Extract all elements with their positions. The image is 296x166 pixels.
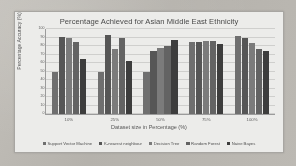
x-axis-tick-label: 75% <box>202 117 211 122</box>
y-axis-tick-label: 0 <box>42 112 44 116</box>
plot-area: 0102030405060708090100 10%25%50%75%100% <box>45 29 275 115</box>
bar <box>105 35 111 114</box>
y-axis-tick-label: 50 <box>41 70 45 74</box>
y-axis-tick-label: 60 <box>41 61 45 65</box>
legend-label: Support Vector Machine <box>48 141 93 146</box>
bar <box>235 36 241 114</box>
legend-color-swatch <box>149 142 152 145</box>
bar <box>80 59 86 114</box>
bar <box>157 48 163 114</box>
x-axis-tick-label: 25% <box>110 117 119 122</box>
bar <box>164 46 170 114</box>
legend-item: Random Forest <box>186 141 220 146</box>
y-axis-tick-label: 70 <box>41 53 45 57</box>
bar <box>203 41 209 114</box>
bar-group: 10% <box>52 29 86 114</box>
x-axis-label: Dataset size in Percentage (%) <box>15 124 283 130</box>
bar <box>242 38 248 115</box>
x-axis-tick-label: 50% <box>156 117 165 122</box>
bar <box>263 51 269 114</box>
bar <box>143 72 149 115</box>
legend-item: Support Vector Machine <box>43 141 92 146</box>
legend-color-swatch <box>43 142 46 145</box>
bar <box>171 40 177 114</box>
bar <box>98 72 104 115</box>
y-axis-tick-label: 40 <box>41 78 45 82</box>
bar-group: 100% <box>235 29 269 114</box>
y-axis-label: Percentage Accuracy (%) <box>16 6 22 76</box>
bar-group: 75% <box>189 29 223 114</box>
legend-label: Random Forest <box>191 141 220 146</box>
y-axis-tick-label: 10 <box>41 104 45 108</box>
y-axis-tick-label: 100 <box>39 27 45 31</box>
legend-item: K-nearest neighbour <box>99 141 142 146</box>
bar-groups: 10%25%50%75%100% <box>46 29 275 114</box>
chart-title: Percentage Achieved for Asian Middle Eas… <box>15 17 283 26</box>
bar <box>256 49 262 114</box>
bar-group: 25% <box>98 29 132 114</box>
legend-color-swatch <box>99 142 102 145</box>
bar <box>249 43 255 114</box>
bar-group: 50% <box>143 29 177 114</box>
bar <box>189 42 195 114</box>
bar <box>66 38 72 115</box>
x-axis-tick-label: 10% <box>65 117 74 122</box>
y-axis-tick-label: 80 <box>41 44 45 48</box>
bar <box>196 42 202 114</box>
bar <box>119 38 125 114</box>
legend-color-swatch <box>186 142 189 145</box>
bar <box>150 51 156 114</box>
legend-label: Decision Tree <box>154 141 180 146</box>
bar <box>210 41 216 114</box>
bar <box>217 44 223 114</box>
bar <box>126 61 132 114</box>
scanned-page-background: Percentage Achieved for Asian Middle Eas… <box>0 0 296 166</box>
legend-label: Naive Bayes <box>232 141 256 146</box>
legend-item: Decision Tree <box>149 141 179 146</box>
bar <box>73 42 79 114</box>
legend-item: Naive Bayes <box>227 141 255 146</box>
bar <box>59 37 65 114</box>
y-axis-tick-label: 30 <box>41 87 45 91</box>
legend-label: K-nearest neighbour <box>104 141 142 146</box>
chart-container: Percentage Achieved for Asian Middle Eas… <box>14 11 284 153</box>
x-axis-tick-label: 100% <box>247 117 258 122</box>
bar <box>112 49 118 114</box>
bar <box>52 72 58 115</box>
y-axis-tick-label: 90 <box>41 36 45 40</box>
chart-legend: Support Vector MachineK-nearest neighbou… <box>15 141 283 146</box>
legend-color-swatch <box>227 142 230 145</box>
y-axis-tick-label: 20 <box>41 95 45 99</box>
